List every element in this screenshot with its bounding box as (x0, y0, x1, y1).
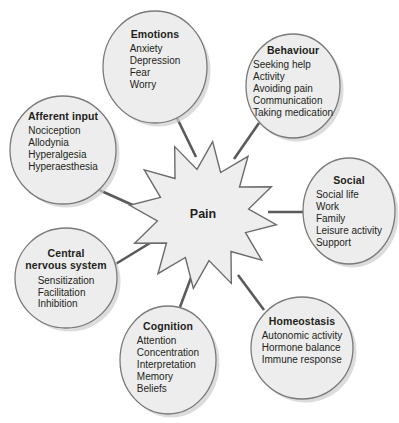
node-ellipse-central-nervous-system (15, 228, 117, 328)
starburst-shape (130, 142, 277, 289)
node-homeostasis[interactable] (251, 297, 357, 403)
node-ellipse-cognition (120, 306, 216, 414)
connector-behaviour (234, 123, 259, 159)
center-node-pain (130, 142, 277, 289)
node-emotions[interactable] (103, 11, 211, 127)
node-ellipse-behaviour (246, 34, 340, 138)
node-central-nervous-system[interactable] (15, 228, 121, 332)
diagram-canvas (0, 0, 399, 423)
pain-concept-diagram: PainEmotionsAnxietyDepressionFearWorryBe… (0, 0, 399, 423)
node-ellipse-emotions (103, 11, 207, 123)
node-social[interactable] (303, 158, 399, 268)
node-cognition[interactable] (120, 306, 220, 418)
connector-cognition (180, 275, 192, 307)
connector-homeostasis (238, 275, 264, 310)
node-ellipse-afferent-input (10, 96, 116, 204)
node-ellipse-homeostasis (251, 297, 353, 399)
connector-central-nervous-system (114, 243, 150, 265)
node-ellipse-social (303, 158, 395, 264)
node-behaviour[interactable] (246, 34, 344, 142)
node-afferent-input[interactable] (10, 96, 120, 208)
